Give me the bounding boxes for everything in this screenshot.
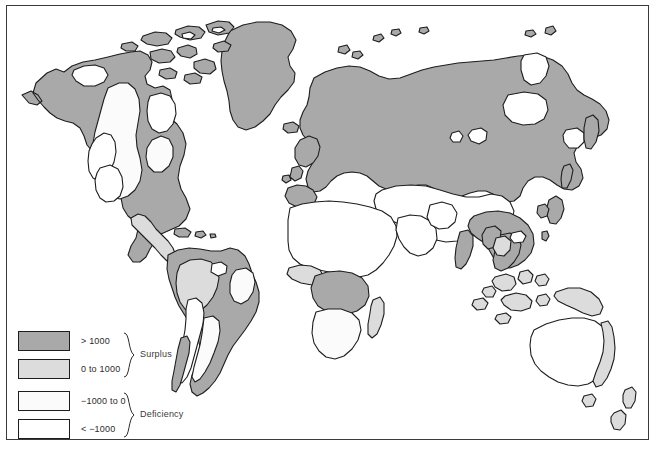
region-taiwan-surplus	[542, 231, 549, 241]
legend-label-surplus-high: > 1000	[81, 336, 110, 346]
legend-label-deficiency-low: −1000 to 0	[81, 396, 126, 406]
legend-item-0: > 1000	[18, 330, 110, 352]
legend-item-3: < −1000	[18, 418, 115, 440]
map-page: > 1000 0 to 1000 −1000 to 0 < −1000 Surp…	[0, 0, 656, 452]
legend-swatch-deficiency-low	[18, 391, 70, 411]
legend-swatch-deficiency-high	[18, 419, 70, 439]
region-british-isles-surplus	[282, 166, 303, 183]
legend-group-label-deficiency: Deficiency	[140, 409, 184, 419]
map-legend: > 1000 0 to 1000 −1000 to 0 < −1000 Surp…	[18, 330, 198, 436]
region-southern-africa-deficiency	[312, 309, 361, 359]
region-greenland-surplus	[221, 22, 296, 130]
region-small-islands	[338, 26, 556, 59]
legend-group-label-surplus: Surplus	[140, 349, 172, 359]
region-northeast-asia-hole	[563, 128, 584, 148]
region-korea-surplus	[537, 204, 549, 218]
region-new-zealand-surplus-low	[611, 387, 636, 430]
region-iceland-surplus	[283, 122, 299, 133]
region-indonesia-surplus-low	[472, 270, 550, 324]
brace-surplus-icon	[122, 331, 136, 379]
region-southwest-deficiency	[95, 165, 123, 202]
region-tasmania-surplus-low	[582, 394, 596, 407]
legend-swatch-surplus-high	[18, 331, 70, 351]
legend-swatch-surplus-low	[18, 359, 70, 379]
region-siberia-white-hole-2	[503, 92, 548, 125]
legend-label-surplus-low: 0 to 1000	[81, 364, 120, 374]
region-new-guinea-surplus-low	[554, 288, 603, 316]
region-kamchatka-surplus	[584, 115, 599, 149]
region-madagascar-surplus-low	[368, 297, 384, 338]
legend-item-1: 0 to 1000	[18, 358, 120, 380]
legend-label-deficiency-high: < −1000	[81, 424, 115, 434]
region-congo-basin-surplus	[311, 271, 369, 314]
region-japan-surplus	[547, 196, 564, 224]
legend-item-2: −1000 to 0	[18, 390, 126, 412]
region-amazon-white-hole	[211, 262, 227, 276]
region-baja-caribbean-islands	[174, 228, 216, 238]
brace-deficiency-icon	[122, 391, 136, 439]
